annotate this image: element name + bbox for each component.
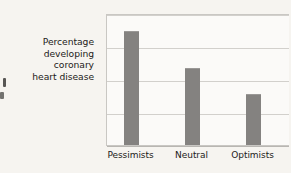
gridline-0	[107, 146, 289, 147]
x-tick-label-pessimists: Pessimists	[96, 150, 166, 160]
chart-screenshot: Percentage developing coronary heart dis…	[0, 0, 291, 173]
x-tick-label-neutral: Neutral	[157, 150, 227, 160]
y-axis-title-line-2: developing	[6, 48, 94, 60]
y-axis-title-line-1: Percentage	[6, 36, 94, 48]
y-axis-title-line-3: coronary	[6, 59, 94, 71]
scan-artifact-secondary	[0, 92, 4, 99]
x-axis-labels: PessimistsNeutralOptimists	[106, 150, 289, 166]
x-tick-label-optimists: Optimists	[218, 150, 288, 160]
bar-pessimists	[124, 31, 139, 145]
bar-series	[107, 15, 289, 145]
bar-neutral	[185, 68, 200, 145]
y-axis-title-line-4: heart disease	[6, 71, 94, 83]
plot-area: 05101520%	[106, 14, 289, 146]
y-axis-title: Percentage developing coronary heart dis…	[6, 36, 94, 82]
bar-optimists	[246, 94, 261, 145]
